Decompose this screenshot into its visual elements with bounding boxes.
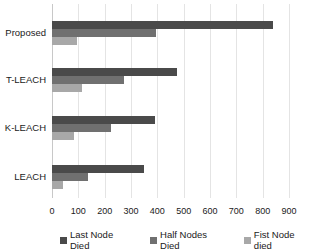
x-tick-label: 900 <box>281 206 296 216</box>
category-label: LEACH <box>14 171 46 182</box>
legend-item: Last Node Died <box>60 229 134 250</box>
legend-swatch-icon <box>60 237 67 244</box>
bar-half-nodes-died <box>52 29 156 37</box>
legend-swatch-icon <box>244 237 251 244</box>
x-tick-label: 200 <box>97 206 112 216</box>
gridline <box>236 4 237 198</box>
legend-label: Fist Node died <box>254 229 314 250</box>
x-tick-label: 600 <box>202 206 217 216</box>
bar-last-node-died <box>52 68 177 76</box>
x-tick-label: 800 <box>255 206 270 216</box>
bar-half-nodes-died <box>52 173 88 181</box>
bar-half-nodes-died <box>52 124 111 132</box>
bar-fist-node-died <box>52 37 77 45</box>
gridline <box>157 4 158 198</box>
bar-fist-node-died <box>52 84 82 92</box>
x-tick-label: 300 <box>123 206 138 216</box>
legend-label: Half Nodes Died <box>160 229 228 250</box>
bar-last-node-died <box>52 116 155 124</box>
category-label: T-LEACH <box>6 74 46 85</box>
bar-last-node-died <box>52 165 144 173</box>
legend-swatch-icon <box>150 237 157 244</box>
bar-fist-node-died <box>52 181 63 189</box>
legend-label: Last Node Died <box>70 229 134 250</box>
gridline <box>263 4 264 198</box>
gridline <box>210 4 211 198</box>
x-tick-label: 400 <box>150 206 165 216</box>
x-tick-label: 0 <box>49 206 54 216</box>
legend: Last Node DiedHalf Nodes DiedFist Node d… <box>60 229 314 250</box>
legend-item: Half Nodes Died <box>150 229 228 250</box>
plot-area <box>52 4 300 198</box>
x-tick-label: 700 <box>229 206 244 216</box>
x-tick-label: 100 <box>71 206 86 216</box>
gridline <box>184 4 185 198</box>
bar-half-nodes-died <box>52 76 124 84</box>
legend-item: Fist Node died <box>244 229 314 250</box>
bar-chart: ProposedT-LEACHK-LEACHLEACH 010020030040… <box>0 0 314 250</box>
bar-last-node-died <box>52 21 273 29</box>
bar-fist-node-died <box>52 132 74 140</box>
category-label: Proposed <box>5 27 46 38</box>
category-label: K-LEACH <box>5 122 46 133</box>
x-tick-label: 500 <box>176 206 191 216</box>
gridline <box>289 4 290 198</box>
